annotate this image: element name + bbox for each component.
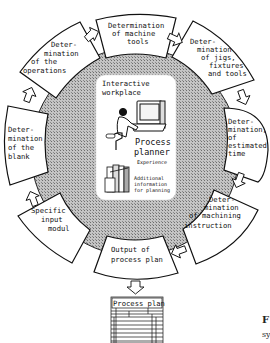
svg-text:time: time: [228, 149, 245, 158]
svg-text:mination: mination: [8, 134, 43, 143]
binders-icon: [105, 165, 129, 192]
svg-text:Specific: Specific: [31, 206, 66, 215]
center-title-line-1: Interactive: [102, 79, 150, 88]
svg-text:instruction: instruction: [184, 221, 232, 230]
svg-text:and tools: and tools: [208, 69, 247, 78]
caption-fragment-line-1: F: [262, 314, 269, 325]
svg-text:of the: of the: [8, 143, 34, 152]
svg-text:Deter-: Deter-: [51, 40, 77, 49]
experience-label: Experience: [137, 159, 167, 166]
svg-text:blank: blank: [8, 152, 30, 161]
svg-text:operations: operations: [23, 66, 66, 75]
svg-text:input: input: [41, 215, 63, 224]
svg-text:Deter-: Deter-: [8, 125, 34, 134]
process-planning-diagram: Interactive workplace Process planner Ex…: [0, 0, 270, 343]
svg-text:of the: of the: [31, 57, 57, 66]
output-arrow-icon: [127, 281, 144, 294]
svg-text:modul: modul: [48, 224, 70, 233]
svg-text:of machining: of machining: [189, 211, 241, 220]
caption-fragment-line-2: sy: [262, 330, 270, 339]
svg-text:process plan: process plan: [111, 255, 163, 264]
info-label-line-3: for planning: [134, 187, 170, 194]
arrow-icon: [20, 85, 38, 104]
svg-text:Output of: Output of: [111, 245, 150, 254]
svg-text:tools: tools: [127, 37, 149, 46]
process-plan-title: Process plan: [113, 299, 165, 308]
center-title-line-2: workplace: [102, 88, 141, 97]
planner-label-line-1: Process: [135, 137, 171, 147]
planner-label-line-2: planner: [134, 147, 170, 157]
arrow-icon: [234, 88, 252, 107]
